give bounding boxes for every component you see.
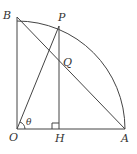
label-p: P	[57, 11, 66, 24]
label-h: H	[54, 132, 65, 145]
label-o: O	[9, 131, 18, 144]
quarter-circle-diagram: B P Q O H A θ	[0, 0, 137, 154]
right-angle-mark	[52, 123, 59, 129]
label-b: B	[2, 9, 11, 22]
label-theta: θ	[26, 117, 32, 127]
label-q: Q	[63, 56, 72, 69]
angle-theta-arc	[20, 122, 25, 129]
segment-op	[17, 26, 59, 129]
label-a: A	[120, 132, 129, 145]
